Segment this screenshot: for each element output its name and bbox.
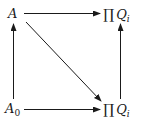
arrows-layer <box>0 0 142 128</box>
commutative-diagram: A ∏Qi A0 ∏Qi <box>0 0 142 128</box>
arrow-diagonal <box>26 22 101 101</box>
